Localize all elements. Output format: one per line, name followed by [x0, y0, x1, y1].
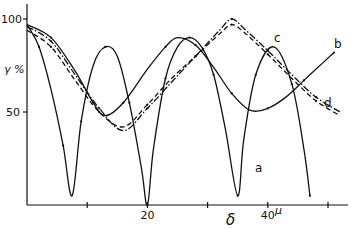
y-tick-label: 100 [1, 13, 22, 26]
data-point [50, 37, 52, 39]
data-point [98, 107, 100, 109]
data-point [146, 204, 148, 206]
data-point [62, 144, 64, 146]
curve-label-c: c [274, 31, 281, 45]
data-point [267, 107, 269, 109]
chart: 2040 50100 abcd γ % δ μ [0, 0, 352, 229]
data-point [104, 46, 106, 48]
series-group [27, 18, 340, 206]
curve-c [27, 19, 340, 131]
data-point [188, 37, 190, 39]
data-point [194, 44, 196, 46]
data-point [231, 92, 233, 94]
data-point [267, 53, 269, 55]
x-tick-label: 40 [261, 209, 275, 222]
data-point [231, 23, 233, 25]
data-point [303, 79, 305, 81]
data-point [122, 102, 124, 104]
data-point [146, 103, 148, 105]
data-point [333, 51, 335, 53]
y-tick-label: 50 [6, 106, 20, 119]
data-point [315, 96, 317, 98]
data-point [213, 74, 215, 76]
data-point [237, 195, 239, 197]
curve-label-a: a [255, 161, 262, 175]
curve-a [27, 25, 310, 206]
data-point [267, 50, 269, 52]
data-point [50, 40, 52, 42]
data-point [315, 100, 317, 102]
data-point [164, 77, 166, 79]
curve-label-b: b [334, 37, 342, 51]
curve-label-d: d [324, 96, 332, 110]
data-point [231, 18, 233, 20]
data-point [98, 111, 100, 113]
data-point [38, 46, 40, 48]
data-point [309, 195, 311, 197]
y-axis-label: γ % [4, 63, 24, 76]
data-point [146, 107, 148, 109]
data-point [80, 120, 82, 122]
data-point [50, 46, 52, 48]
x-unit-label: μ [274, 204, 282, 217]
x-axis-label: δ [226, 211, 235, 229]
curve-labels: abcd [255, 31, 342, 175]
data-point [164, 46, 166, 48]
data-point [128, 102, 130, 104]
data-point [194, 55, 196, 57]
data-point [255, 74, 257, 76]
x-tick-label: 20 [140, 209, 154, 222]
data-point [291, 83, 293, 85]
